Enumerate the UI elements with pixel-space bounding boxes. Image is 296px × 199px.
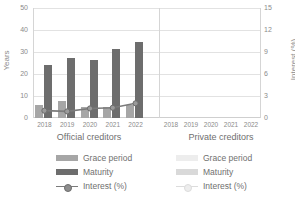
legend-label-maturity: Maturity (83, 165, 113, 179)
legend-swatch-maturity-icon (176, 169, 198, 175)
y-tick-label-left: 20 (8, 70, 28, 77)
interest-data-point[interactable] (110, 105, 115, 110)
legend-official: Grace period Maturity Interest (%) (56, 151, 132, 193)
legend-private: Grace period Maturity Interest (%) (176, 151, 252, 193)
legend-swatch-interest-line-icon (56, 183, 78, 189)
x-tick-label: 2020 (201, 120, 221, 130)
legend-item-maturity[interactable]: Maturity (176, 165, 252, 179)
y-tick-label-left: 50 (8, 4, 28, 11)
x-axis-ticks-private: 20182019202020212022 (161, 120, 261, 130)
x-tick-label: 2021 (101, 120, 124, 130)
interest-data-point[interactable] (133, 101, 138, 106)
legend-item-interest[interactable]: Interest (%) (176, 179, 252, 193)
x-tick-label: 2019 (181, 120, 201, 130)
legend-swatch-interest-line-icon (176, 183, 198, 189)
y-tick-label-left: 0 (8, 114, 28, 121)
chart-figure: Years Interest (%) 01020304050 03691215 … (0, 0, 295, 199)
interest-data-point[interactable] (65, 109, 70, 114)
legend-label-maturity: Maturity (203, 165, 233, 179)
y-tick-label-left: 30 (8, 48, 28, 55)
y-tick-label-right: 6 (264, 70, 284, 77)
panel-label-private: Private creditors (156, 131, 286, 143)
legend-item-grace-period[interactable]: Grace period (176, 151, 252, 165)
x-tick-label: 2020 (79, 120, 102, 130)
y-tick-label-right: 3 (264, 92, 284, 99)
interest-line-series (33, 8, 261, 118)
plot-area (33, 8, 261, 118)
legend-label-interest: Interest (%) (83, 179, 127, 193)
y-tick-label-right: 12 (264, 26, 284, 33)
legend-swatch-grace-period-icon (56, 155, 78, 161)
legend-item-interest[interactable]: Interest (%) (56, 179, 132, 193)
panel-label-official: Official creditors (24, 131, 154, 143)
legend-label-grace-period: Grace period (83, 151, 132, 165)
interest-data-point[interactable] (87, 106, 92, 111)
legend-label-interest: Interest (%) (203, 179, 247, 193)
x-tick-label: 2022 (124, 120, 147, 130)
y-tick-label-right: 0 (264, 114, 284, 121)
y-tick-label-left: 10 (8, 92, 28, 99)
x-tick-label: 2018 (33, 120, 56, 130)
x-axis-ticks-official: 20182019202020212022 (33, 120, 147, 130)
y-axis-title-right: Interest (%) (289, 30, 296, 90)
y-tick-label-right: 9 (264, 48, 284, 55)
legend-item-maturity[interactable]: Maturity (56, 165, 132, 179)
x-tick-label: 2019 (56, 120, 79, 130)
legend-swatch-maturity-icon (56, 169, 78, 175)
x-tick-label: 2021 (221, 120, 241, 130)
interest-data-point[interactable] (42, 108, 47, 113)
y-tick-label-left: 40 (8, 26, 28, 33)
legend-item-grace-period[interactable]: Grace period (56, 151, 132, 165)
legend-swatch-grace-period-icon (176, 155, 198, 161)
y-tick-label-right: 15 (264, 4, 284, 11)
legend-label-grace-period: Grace period (203, 151, 252, 165)
x-tick-label: 2018 (161, 120, 181, 130)
x-tick-label: 2022 (241, 120, 261, 130)
